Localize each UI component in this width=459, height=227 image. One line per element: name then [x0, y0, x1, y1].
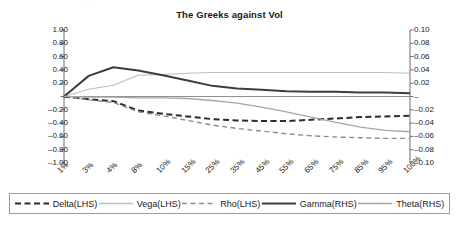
series-line-gammarhs [64, 67, 410, 96]
left-axis-tick-label: 0.80 [52, 39, 68, 47]
left-axis-tick-label: –0.60 [48, 132, 68, 140]
left-axis-tick-label: 0.20 [52, 79, 68, 87]
right-axis-tick-label: –0.06 [414, 132, 434, 140]
right-axis-tick-label: 0.02 [414, 79, 430, 87]
legend-label: Vega(LHS) [137, 199, 181, 209]
chart-legend: Delta(LHS)Vega(LHS)Rho(LHS)Gamma(RHS)The… [9, 193, 450, 214]
legend-swatch [262, 200, 296, 207]
right-axis-tick-label: –0.02 [414, 106, 434, 114]
left-axis-tick-label: –0.80 [48, 146, 68, 154]
legend-swatch [182, 200, 216, 207]
chart-figure: ... The Greeks against Vol 1.000.800.600… [0, 0, 459, 227]
legend-label: Delta(LHS) [53, 199, 98, 209]
legend-swatch [15, 200, 49, 207]
left-axis-tick-label: 0.60 [52, 53, 68, 61]
right-axis-tick-label: 0.04 [414, 66, 430, 74]
legend-swatch [99, 200, 133, 207]
legend-item[interactable]: Theta(RHS) [358, 199, 444, 209]
right-axis-tick-label: – [414, 93, 418, 101]
legend-label: Gamma(RHS) [300, 199, 357, 209]
legend-label: Rho(LHS) [220, 199, 260, 209]
left-axis-tick-label: –0.40 [48, 119, 68, 127]
right-axis-tick-label: 0.10 [414, 26, 430, 34]
left-axis-tick-label: 0.40 [52, 66, 68, 74]
left-axis-tick-label: – [64, 93, 68, 101]
legend-item[interactable]: Delta(LHS) [15, 199, 98, 209]
right-axis-tick-label: –0.08 [414, 146, 434, 154]
legend-label: Theta(RHS) [396, 199, 444, 209]
right-axis-tick-label: 0.06 [414, 53, 430, 61]
left-axis-tick-label: 1.00 [52, 26, 68, 34]
left-axis-tick-label: –0.20 [48, 106, 68, 114]
legend-item[interactable]: Gamma(RHS) [262, 199, 357, 209]
legend-item[interactable]: Rho(LHS) [182, 199, 260, 209]
series-line-deltalhs [64, 97, 410, 122]
right-axis-tick-label: –0.04 [414, 119, 434, 127]
right-axis-tick-label: 0.08 [414, 39, 430, 47]
legend-swatch [358, 200, 392, 207]
legend-item[interactable]: Vega(LHS) [99, 199, 181, 209]
